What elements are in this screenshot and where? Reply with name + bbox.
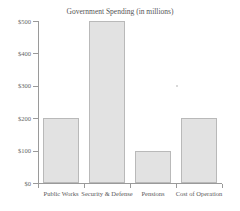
x-tick-mark [38,184,39,188]
bar [89,21,125,183]
x-tick-mark [176,184,177,188]
x-tick-label: Cost of Operation [170,190,228,198]
x-tick-mark [84,184,85,188]
bar-chart: Government Spending (in millions) $0$100… [0,0,240,211]
y-tick-label: $500 [5,18,31,25]
x-tick-mark [222,184,223,188]
y-tick-label: $100 [5,147,31,154]
bar [135,151,171,183]
y-tick-label: $400 [5,50,31,57]
x-tick-mark [130,184,131,188]
y-tick-label: $0 [5,180,31,187]
bar [43,118,79,183]
chart-title: Government Spending (in millions) [0,7,240,16]
y-tick-label: $300 [5,82,31,89]
bars-layer [38,21,222,183]
bar [181,118,217,183]
scan-speck [176,85,178,87]
y-tick-label: $200 [5,115,31,122]
clipped-header-text [36,0,216,5]
